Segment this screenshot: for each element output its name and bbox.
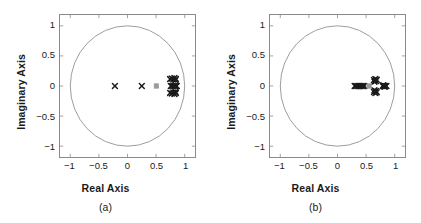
y-tick-label: −0.5 [31,112,55,122]
y-tick-label: −0.5 [241,112,265,122]
pole-marker [139,84,144,89]
plot-area-b [269,14,406,158]
plot-canvas-a [60,15,195,157]
zero-marker [154,84,159,89]
y-tick-label: 0 [31,81,55,91]
pole-marker [112,84,117,89]
x-tick-label: 0 [125,161,130,171]
plot-canvas-b [270,15,405,157]
panel-caption-a: (a) [0,201,211,213]
y-tick-label: 1 [241,20,265,30]
unit-circle [280,26,394,146]
x-tick-label: 0 [335,161,340,171]
panel-b: −1−0.500.51 −1−0.500.51 Real Axis Imagin… [210,0,421,223]
panel-a: −1−0.500.51 −1−0.500.51 Real Axis Imagin… [0,0,211,223]
y-tick-label: 0.5 [31,50,55,60]
y-axis-label-a: Imaginary Axis [15,22,27,162]
unit-circle [70,26,184,146]
y-tick-label: 1 [31,20,55,30]
x-tick-label: 0.5 [360,161,373,171]
x-tick-label: −0.5 [89,161,108,171]
panel-caption-b: (b) [210,201,421,213]
x-tick-label: 1 [183,161,188,171]
x-tick-label: −1 [274,161,285,171]
pole-zero-figure: −1−0.500.51 −1−0.500.51 Real Axis Imagin… [0,0,421,223]
x-axis-label-a: Real Axis [0,182,211,194]
y-tick-label: 0.5 [241,50,265,60]
y-tick-label: 0 [241,81,265,91]
x-tick-label: 1 [393,161,398,171]
plot-area-a [59,14,196,158]
y-tick-label: −1 [241,142,265,152]
y-axis-label-b: Imaginary Axis [225,22,237,162]
x-axis-label-b: Real Axis [210,182,421,194]
x-tick-label: −1 [64,161,75,171]
x-tick-label: −0.5 [299,161,318,171]
zero-marker [367,84,372,89]
y-tick-label: −1 [31,142,55,152]
x-tick-label: 0.5 [150,161,163,171]
